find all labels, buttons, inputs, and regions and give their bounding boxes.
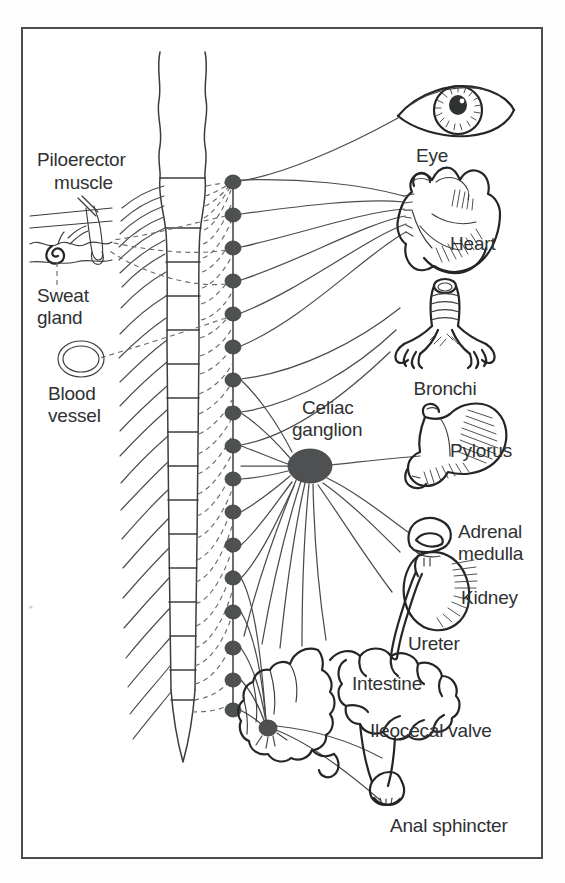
piloerector-muscle-label-line1: Piloerector [37, 149, 126, 170]
hypogastric-ganglion [259, 720, 277, 736]
chain-ganglion [225, 472, 241, 486]
celiac-ganglion-label-line2: ganglion [292, 419, 362, 440]
ileocecal-valve-label: Ileocecal valve [370, 720, 492, 741]
sweat-gland-label-line1: Sweat [37, 285, 90, 306]
blood-vessel-label-line2: vessel [48, 405, 101, 426]
chain-ganglion [225, 605, 241, 619]
chain-ganglion [225, 175, 241, 189]
eye-label: Eye [416, 145, 448, 166]
scan-artifact-speck [29, 605, 32, 608]
chain-ganglion [225, 505, 241, 519]
chain-ganglion [225, 208, 241, 222]
chain-ganglion [225, 406, 241, 420]
intestine-label: Intestine [352, 673, 422, 694]
figure-root: Eye [0, 0, 565, 883]
adrenal-medulla-label-line2: medulla [458, 543, 524, 564]
heart-label: Heart [450, 233, 496, 254]
chain-ganglion [225, 571, 241, 585]
chain-ganglion [225, 340, 241, 354]
blood-vessel-label-line1: Blood [48, 383, 96, 404]
chain-ganglion [225, 373, 241, 387]
ureter-label: Ureter [408, 633, 460, 654]
pylorus-label: Pylorus [450, 440, 512, 461]
sweat-gland-label-line2: gland [37, 307, 83, 328]
chain-ganglion [225, 538, 241, 552]
celiac-ganglion-label-line1: Celiac [302, 397, 354, 418]
piloerector-muscle-label-line2: muscle [54, 172, 113, 193]
sympathetic-nervous-system-diagram: Eye [0, 0, 565, 883]
anal-sphincter-label: Anal sphincter [390, 815, 508, 836]
chain-ganglion [225, 673, 241, 687]
chain-ganglion [225, 241, 241, 255]
adrenal-medulla-label-line1: Adrenal [458, 521, 522, 542]
celiac-ganglion [288, 449, 332, 483]
chain-ganglion [225, 307, 241, 321]
kidney-label: Kidney [461, 587, 519, 608]
chain-ganglion [225, 439, 241, 453]
chain-ganglion [225, 274, 241, 288]
chain-ganglion [225, 641, 241, 655]
bronchi-label: Bronchi [413, 378, 476, 399]
